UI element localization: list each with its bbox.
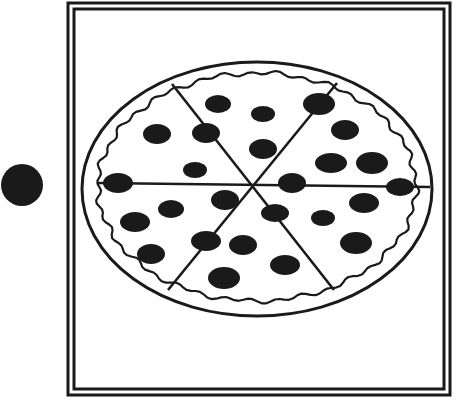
crust-outline — [82, 62, 432, 316]
pepperoni-slice — [137, 244, 165, 264]
pepperoni-slice — [315, 153, 347, 173]
pepperoni-slice — [205, 95, 231, 113]
pepperoni-slice — [278, 173, 306, 193]
pepperoni-slice — [251, 106, 275, 122]
pizza-crust-outer — [82, 62, 432, 316]
pepperoni-slice — [208, 267, 240, 289]
pepperoni-slice — [270, 255, 300, 275]
marker-dot — [1, 164, 43, 206]
pizza — [82, 62, 432, 316]
pepperoni-slice — [303, 93, 335, 115]
pepperoni-slice — [311, 210, 335, 226]
pepperoni-slice — [331, 120, 359, 140]
pepperoni-slice — [349, 193, 379, 213]
pepperoni-slice — [386, 178, 414, 196]
pepperoni-slice — [143, 124, 171, 144]
pizza-illustration — [0, 0, 464, 409]
pepperoni-slice — [356, 152, 388, 174]
pepperoni-slice — [103, 173, 133, 193]
pepperoni-slice — [249, 139, 277, 159]
pepperoni-slice — [192, 123, 220, 143]
pepperoni-slice — [211, 190, 239, 210]
pepperoni-slice — [120, 212, 150, 232]
pepperoni-slice — [261, 204, 289, 222]
pepperoni-slice — [191, 231, 221, 251]
pepperoni-slice — [340, 232, 372, 254]
pepperoni-slice — [229, 235, 257, 255]
pepperoni-slice — [183, 162, 207, 178]
pepperoni-slice — [158, 200, 184, 218]
black-circle-icon — [1, 164, 43, 206]
